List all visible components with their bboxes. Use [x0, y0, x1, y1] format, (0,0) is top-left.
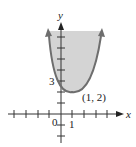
x-axis-label: x: [125, 108, 131, 120]
parabola-graph: y x 0 1 3 (1, 2): [0, 0, 136, 147]
origin-label: 0: [52, 116, 58, 128]
shaded-region: [48, 31, 102, 92]
x-axis-arrow-icon: [116, 111, 124, 117]
y-axis-arrow-icon: [58, 22, 64, 30]
y-axis-label: y: [57, 9, 63, 21]
vertex-label: (1, 2): [82, 91, 106, 104]
x-tick-label-1: 1: [69, 118, 75, 130]
y-tick-label-3: 3: [49, 75, 55, 87]
